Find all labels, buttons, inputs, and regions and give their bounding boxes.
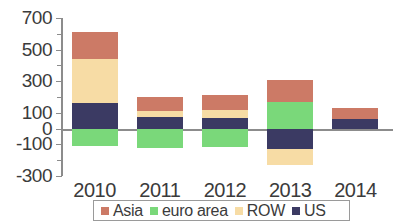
legend-label: ROW — [247, 202, 285, 220]
bar-segment-US[interactable] — [202, 118, 248, 129]
bar-segment-euro-area[interactable] — [202, 129, 248, 147]
x-axis-label-2011: 2011 — [127, 179, 192, 202]
bar-segment-Asia[interactable] — [137, 97, 183, 111]
y-axis-tick-label: 700 — [22, 7, 52, 29]
y-axis-tick: -300 — [56, 176, 62, 177]
bar-group-2013[interactable] — [267, 18, 313, 176]
legend-item-US[interactable]: US — [292, 202, 326, 220]
legend-swatch-us — [292, 207, 300, 215]
plot-area — [62, 18, 388, 176]
bar-group-2012[interactable] — [202, 18, 248, 176]
y-axis-tick-label: 100 — [22, 102, 52, 124]
bar-segment-Asia[interactable] — [332, 108, 378, 119]
bar-segment-US[interactable] — [137, 117, 183, 129]
x-axis-label-2013: 2013 — [258, 179, 323, 202]
x-axis-label-2014: 2014 — [323, 179, 388, 202]
bar-group-2011[interactable] — [137, 18, 183, 176]
bar-segment-Asia[interactable] — [202, 95, 248, 111]
bar-segment-euro-area[interactable] — [267, 102, 313, 129]
bar-segment-US[interactable] — [72, 103, 118, 128]
bar-segment-Asia[interactable] — [72, 32, 118, 59]
bar-segment-ROW[interactable] — [137, 111, 183, 117]
y-axis-tick-label: -300 — [16, 165, 52, 187]
stacked-bar-chart: -300-1000100300500700 201020112012201320… — [0, 0, 396, 223]
bar-segment-euro-area[interactable] — [72, 129, 118, 146]
x-axis-label-2010: 2010 — [62, 179, 127, 202]
legend-label: euro area — [162, 202, 228, 220]
legend-swatch-row — [235, 207, 243, 215]
y-axis-tick-label: 300 — [22, 70, 52, 92]
bar-segment-US[interactable] — [332, 119, 378, 128]
legend-item-Asia[interactable]: Asia — [101, 202, 143, 220]
y-axis-tick-label: 500 — [22, 39, 52, 61]
bar-segment-ROW[interactable] — [267, 149, 313, 165]
bar-segment-ROW[interactable] — [72, 59, 118, 103]
legend-item-euro-area[interactable]: euro area — [150, 202, 228, 220]
legend-item-ROW[interactable]: ROW — [235, 202, 285, 220]
bar-segment-euro-area[interactable] — [137, 129, 183, 148]
legend-swatch-euro-area — [150, 207, 158, 215]
bar-segment-US[interactable] — [267, 129, 313, 150]
legend-label: Asia — [113, 202, 143, 220]
bar-group-2010[interactable] — [72, 18, 118, 176]
legend-label: US — [304, 202, 326, 220]
x-axis-label-2012: 2012 — [192, 179, 257, 202]
bar-group-2014[interactable] — [332, 18, 378, 176]
chart-legend: Asiaeuro areaROWUS — [93, 200, 350, 221]
bar-segment-ROW[interactable] — [202, 110, 248, 117]
legend-swatch-asia — [101, 207, 109, 215]
bar-segment-Asia[interactable] — [267, 80, 313, 102]
